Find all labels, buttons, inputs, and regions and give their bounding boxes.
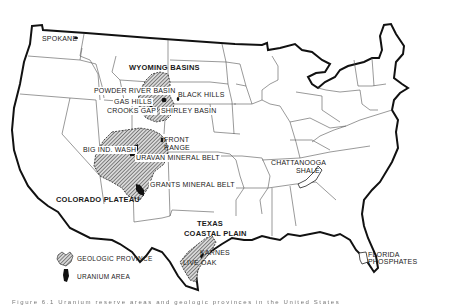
- uranium-powder-river: [162, 98, 167, 102]
- label-crooks-gap: CROOKS GAP: [106, 107, 157, 115]
- province-florida-phosphates: [359, 252, 368, 264]
- legend-label-uranium-area: URANIUM AREA: [77, 273, 130, 281]
- label-black-hills: BLACK HILLS: [178, 91, 225, 99]
- label-front-range-line2: RANGE: [164, 144, 190, 152]
- label-colorado-plateau: COLORADO PLATEAU: [56, 196, 140, 204]
- label-live-oak: LIVE OAK: [183, 259, 217, 267]
- uranium-front-range: [161, 138, 164, 143]
- label-gas-hills: GAS HILLS: [113, 98, 153, 106]
- legend-uranium-swatch: [63, 269, 69, 282]
- label-chattanooga-line1: CHATTANOOGA: [271, 159, 326, 167]
- label-wyoming-basins: WYOMING BASINS: [129, 64, 200, 72]
- label-chattanooga-line2: SHALE: [296, 167, 320, 175]
- label-big-indian-wash: BIG IND. WASH: [82, 146, 137, 154]
- label-karnes: KARNES: [200, 249, 230, 257]
- label-spokane: SPOKANE: [42, 35, 77, 43]
- label-florida-line2: PHOSPHATES: [368, 258, 417, 266]
- legend-label-geologic-province: GEOLOGIC PROVINCE: [77, 255, 153, 263]
- label-uravan-mineral-belt: URAVAN MINERAL BELT: [135, 154, 221, 162]
- label-texas-line2: COASTAL PLAIN: [184, 230, 247, 238]
- label-texas-line1: TEXAS: [197, 220, 223, 228]
- label-shirley-basin: SHIRLEY BASIN: [160, 107, 217, 115]
- legend-province-swatch: [57, 252, 73, 266]
- label-powder-river-basin: POWDER RIVER BASIN: [93, 87, 176, 95]
- figure-caption: Figure 6.1 Uranium reserve areas and geo…: [12, 299, 340, 305]
- label-grants-mineral-belt: GRANTS MINERAL BELT: [149, 181, 236, 189]
- label-front-range-line1: FRONT: [164, 136, 189, 144]
